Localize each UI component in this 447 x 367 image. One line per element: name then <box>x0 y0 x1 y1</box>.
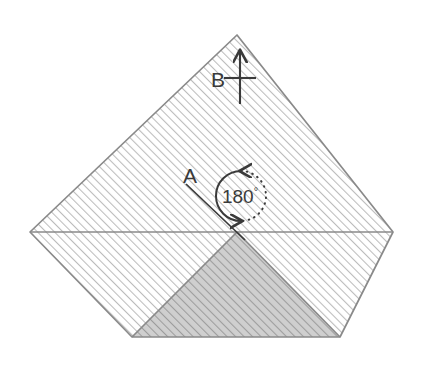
axis-a-label: A <box>183 164 197 187</box>
diagram-canvas: B A 180° <box>0 0 447 367</box>
folding-diagram-svg: B A 180° <box>0 0 447 367</box>
degree-symbol-icon: ° <box>254 185 258 197</box>
axis-b-label: B <box>211 68 225 91</box>
rotation-angle-label: 180° <box>222 185 258 207</box>
rotation-angle-value: 180 <box>222 186 254 207</box>
region-upper-sheet <box>30 35 393 232</box>
